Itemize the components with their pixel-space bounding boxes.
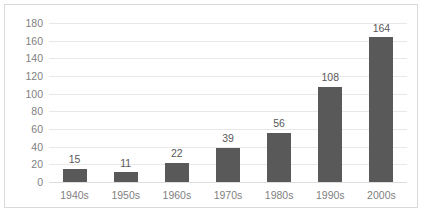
y-axis-tick-label: 20: [11, 159, 43, 170]
x-axis-tick-label: 1940s: [60, 190, 89, 201]
x-axis-tick-label: 1950s: [111, 190, 140, 201]
x-axis-tick-label: 1970s: [214, 190, 243, 201]
y-axis-tick-label: 120: [11, 71, 43, 82]
plot-area: 1511223956108164: [49, 23, 407, 182]
bar-value-label: 164: [373, 23, 391, 34]
bar[interactable]: [63, 169, 87, 182]
bar-value-label: 56: [273, 118, 285, 129]
bar-group: 108: [305, 23, 356, 182]
y-axis-tick-label: 180: [11, 18, 43, 29]
bar[interactable]: [369, 37, 393, 182]
x-axis-tick-labels: 1940s1950s1960s1970s1980s1990s2000s: [49, 187, 407, 203]
bar-value-label: 22: [171, 148, 183, 159]
bar-group: 22: [151, 23, 202, 182]
bar[interactable]: [267, 133, 291, 182]
bar-value-label: 11: [120, 158, 131, 169]
bar-value-label: 108: [322, 72, 340, 83]
bar[interactable]: [114, 172, 138, 182]
bar-value-label: 15: [69, 154, 81, 165]
bar[interactable]: [318, 87, 342, 182]
y-axis-tick-label: 40: [11, 141, 43, 152]
bar-value-label: 39: [222, 133, 234, 144]
x-axis-tick-label: 1980s: [265, 190, 294, 201]
x-axis-tick-label: 1990s: [316, 190, 345, 201]
bar[interactable]: [216, 148, 240, 182]
y-axis-tick-label: 80: [11, 106, 43, 117]
chart-container: 180160140120100806040200 151122395610816…: [4, 4, 418, 208]
y-axis-tick-label: 160: [11, 35, 43, 46]
y-axis-tick-labels: 180160140120100806040200: [11, 23, 43, 182]
y-axis-tick-label: 140: [11, 53, 43, 64]
y-axis-tick-label: 0: [11, 177, 43, 188]
bar[interactable]: [165, 163, 189, 182]
x-axis-tick-label: 2000s: [367, 190, 396, 201]
axis-baseline: [49, 182, 407, 183]
bar-group: 39: [202, 23, 253, 182]
x-axis-tick-label: 1960s: [163, 190, 192, 201]
bar-group: 15: [49, 23, 100, 182]
y-axis-tick-label: 60: [11, 124, 43, 135]
bar-group: 164: [356, 23, 407, 182]
bar-group: 11: [100, 23, 151, 182]
bar-group: 56: [254, 23, 305, 182]
y-axis-tick-label: 100: [11, 88, 43, 99]
